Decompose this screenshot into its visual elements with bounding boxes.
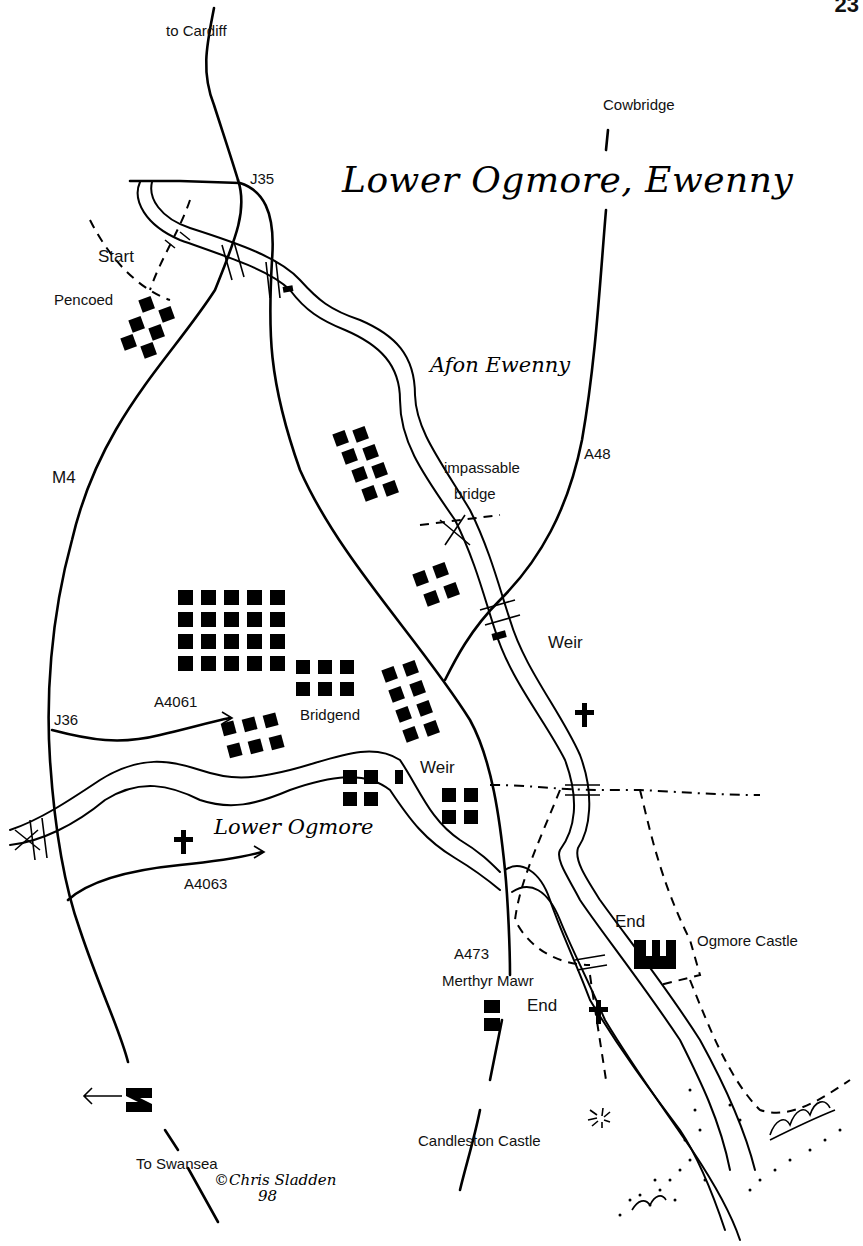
river-label-ogmore: Lower Ogmore — [214, 817, 373, 838]
river-ewenny-left — [138, 182, 730, 1170]
buildings-a48 — [412, 562, 460, 607]
label-weir-east: Weir — [548, 634, 583, 651]
map-title: Lower Ogmore, Ewenny — [342, 162, 793, 198]
bridge-j35 — [266, 262, 280, 298]
label-a473: A473 — [454, 946, 489, 961]
credit-signature: ©Chris Sladden 98 — [214, 1173, 336, 1205]
dune-scallops-2 — [632, 1196, 666, 1210]
castle-icon — [634, 940, 676, 969]
road-a4061 — [52, 718, 230, 740]
label-to-cardiff: to Cardiff — [166, 23, 227, 38]
north-arrow-icon — [84, 1088, 152, 1112]
label-start: Start — [98, 248, 134, 265]
label-merthyr-mawr: Merthyr Mawr — [442, 973, 534, 988]
label-bridge: bridge — [454, 486, 496, 501]
church-cross-icon-ogmore — [174, 830, 193, 854]
buildings-bridgend-east — [381, 660, 440, 743]
road-a48 — [445, 210, 606, 680]
label-bridgend: Bridgend — [300, 707, 360, 722]
label-cowbridge: Cowbridge — [603, 97, 675, 112]
road-a473-south-2 — [460, 1110, 480, 1190]
label-to-swansea: To Swansea — [136, 1156, 218, 1171]
river-label-ewenny: Afon Ewenny — [430, 355, 570, 376]
weir-mark-1 — [395, 770, 403, 784]
footpath-candleston — [515, 790, 590, 965]
bridge-west — [15, 818, 47, 860]
road-cowbridge-top — [606, 130, 608, 150]
footpath-coast — [690, 980, 850, 1113]
label-impassable: impassable — [444, 460, 520, 475]
label-candleston-castle: Candleston Castle — [418, 1133, 541, 1148]
label-pencoed: Pencoed — [54, 292, 113, 307]
buildings-bridgend-small — [296, 660, 354, 696]
ruin-icon — [588, 1108, 610, 1128]
weir-mark-2 — [491, 630, 506, 640]
dune-scallops — [770, 1102, 835, 1140]
sand-dunes — [619, 1089, 842, 1217]
buildings-merthyr-mawr — [484, 1000, 500, 1031]
river-ewenny-right — [151, 182, 755, 1170]
buildings-weir-east — [442, 788, 478, 824]
label-a4061: A4061 — [154, 694, 197, 709]
credit-year: 98 — [214, 1187, 277, 1205]
label-m4: M4 — [52, 469, 76, 486]
road-m4-south — [165, 1130, 178, 1150]
footpath-east — [490, 785, 760, 795]
road-a4063 — [68, 852, 262, 900]
label-a48: A48 — [584, 446, 611, 461]
label-j35: J35 — [250, 171, 274, 186]
church-cross-icon-weir — [575, 703, 594, 727]
buildings-upper — [332, 426, 399, 502]
buildings-weir-west — [343, 770, 378, 806]
label-end-ogmore: End — [615, 913, 645, 930]
buildings-pencoed — [120, 296, 175, 359]
label-j36: J36 — [54, 712, 78, 727]
label-end-merthyr: End — [527, 997, 557, 1014]
buildings-bridgend-large — [178, 590, 285, 671]
label-ogmore-castle: Ogmore Castle — [697, 933, 798, 948]
label-weir-west: Weir — [420, 759, 455, 776]
label-a4063: A4063 — [184, 876, 227, 891]
